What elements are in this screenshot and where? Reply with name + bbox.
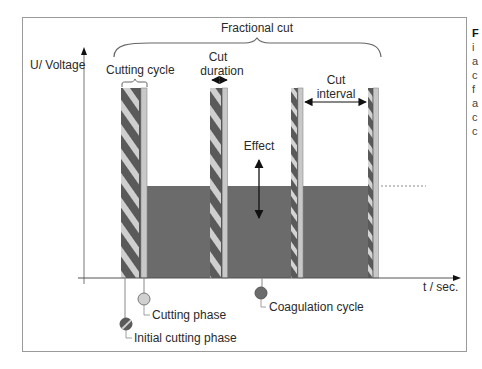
diagram-frame: [23, 18, 467, 352]
side-caption-line: F: [472, 26, 482, 40]
cutting-phase-label: Cutting phase: [152, 308, 226, 322]
coagulation-blocks: [147, 186, 368, 278]
cutting-cycle-label: Cutting cycle: [106, 63, 175, 77]
x-axis-label: t / sec.: [423, 280, 458, 294]
side-caption-line: a: [472, 96, 482, 110]
effect-label: Effect: [244, 139, 275, 153]
side-caption-line: c: [472, 124, 482, 138]
side-caption-line: f: [472, 82, 482, 96]
side-caption: F i a c f a c c: [472, 26, 482, 138]
cutting-phase-marker-icon: [138, 293, 150, 305]
cut-interval-label-line1: Cut: [327, 73, 346, 87]
cut-duration-label-line2: duration: [200, 64, 243, 78]
cut-interval-label-line2: interval: [317, 87, 356, 101]
initial-cutting-phase-label: Initial cutting phase: [134, 331, 237, 345]
cut-duration-label-line1: Cut: [209, 50, 228, 64]
initial-cutting-phase-marker-icon: [120, 318, 132, 330]
pulse-1: [121, 88, 147, 278]
coagulation-cycle-marker-icon: [255, 287, 267, 299]
pulse-2: [210, 88, 228, 278]
side-caption-line: c: [472, 68, 482, 82]
pulse-4: [368, 88, 379, 278]
fractional-cut-label: Fractional cut: [221, 21, 294, 35]
side-caption-line: a: [472, 54, 482, 68]
y-axis-label: U/ Voltage: [30, 58, 86, 72]
side-caption-line: c: [472, 110, 482, 124]
pulse-3: [291, 88, 303, 278]
side-caption-line: i: [472, 40, 482, 54]
coagulation-cycle-label: Coagulation cycle: [269, 300, 364, 314]
